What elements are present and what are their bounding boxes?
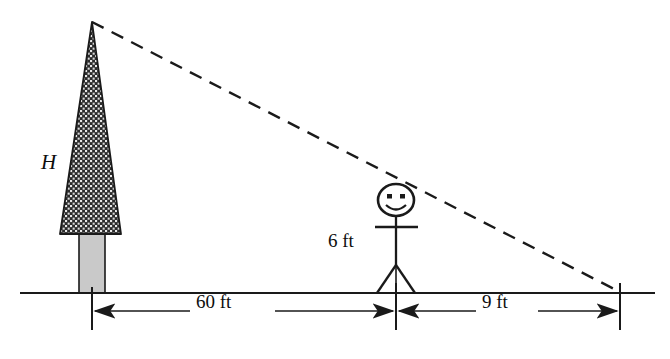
tree-trunk [79, 231, 105, 293]
person-eye-left [387, 194, 392, 199]
person-height-label: 6 ft [328, 230, 354, 252]
tree-height-label: H [41, 150, 57, 175]
person-leg-left [377, 265, 396, 293]
person-head [378, 184, 414, 216]
tree-icon [60, 22, 121, 293]
diagram-canvas [0, 0, 670, 359]
person-leg-right [396, 265, 415, 293]
distance-person-to-tip-label: 9 ft [482, 291, 508, 313]
tree-height-diagram: H 6 ft 60 ft 9 ft [0, 0, 670, 359]
person-eye-right [400, 194, 405, 199]
tree-canopy [60, 22, 121, 234]
dashed-sight-line [92, 22, 620, 292]
distance-tree-to-person-label: 60 ft [196, 291, 231, 313]
